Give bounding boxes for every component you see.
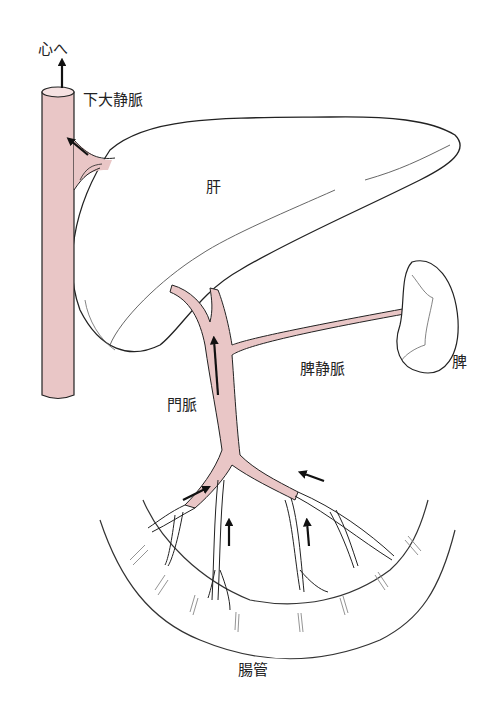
label-portal-vein: 門脈: [167, 398, 197, 413]
arrow-mesenteric-right-icon: [302, 473, 324, 481]
label-splenic-vein: 脾静脈: [300, 362, 345, 377]
label-intestine: 腸管: [238, 663, 268, 678]
arrow-mesenteric-center-right-icon: [307, 522, 309, 546]
intestine: [100, 500, 455, 659]
label-liver: 肝: [206, 180, 221, 195]
spleen: [397, 261, 458, 373]
label-to-heart: 心へ: [38, 42, 68, 57]
label-spleen: 脾: [452, 355, 467, 370]
label-inferior-vena-cava: 下大静脈: [83, 93, 143, 108]
portal-system-diagram: [0, 0, 494, 715]
